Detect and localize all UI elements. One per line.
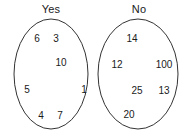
set-member-yes-5: 4 [38,110,44,121]
set-member-no-5: 20 [123,109,134,120]
set-member-yes-1: 3 [53,33,59,44]
set-member-yes-3: 5 [24,84,30,95]
set-label-yes: Yes [42,3,61,15]
set-member-yes-2: 10 [55,57,66,68]
venn-diagram-figure: Yes No 6 3 10 5 1 4 7 14 12 100 25 13 20 [0,0,189,137]
set-member-yes-4: 1 [81,84,87,95]
set-member-no-1: 12 [111,59,122,70]
set-ellipse-yes [14,19,88,129]
set-member-no-4: 13 [158,85,169,96]
set-member-no-2: 100 [156,59,173,70]
set-member-yes-0: 6 [34,33,40,44]
set-member-yes-6: 7 [57,110,63,121]
set-label-no: No [132,3,146,15]
set-ellipse-no [98,19,178,129]
set-member-no-3: 25 [131,85,142,96]
set-member-no-0: 14 [126,33,137,44]
